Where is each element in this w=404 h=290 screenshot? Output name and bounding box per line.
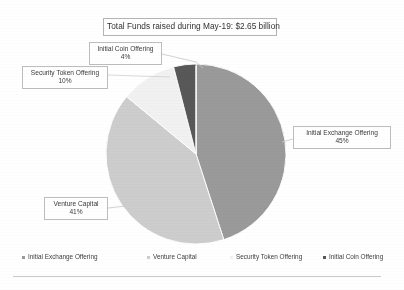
- data-label-ieo-percent: 45%: [297, 137, 387, 145]
- data-label-ico-percent: 4%: [93, 53, 158, 61]
- legend-swatch-icon: [22, 256, 25, 259]
- data-label-initial-exchange-offering: Initial Exchange Offering 45%: [293, 126, 391, 149]
- footer-divider: [13, 276, 381, 277]
- legend-swatch-icon: [230, 256, 233, 259]
- legend-item-initial-coin-offering: Initial Coin Offering: [323, 252, 383, 262]
- data-label-ieo-name: Initial Exchange Offering: [306, 129, 378, 136]
- data-label-venture-capital: Venture Capital 41%: [44, 197, 108, 220]
- chart-legend: Initial Exchange Offering Venture Capita…: [18, 252, 390, 266]
- data-label-initial-coin-offering: Initial Coin Offering 4%: [89, 42, 162, 65]
- data-label-vc-percent: 41%: [48, 208, 104, 216]
- pie-graphic: [103, 62, 289, 246]
- legend-label: Security Token Offering: [236, 252, 302, 262]
- legend-label: Initial Exchange Offering: [28, 252, 98, 262]
- legend-item-venture-capital: Venture Capital: [147, 252, 197, 262]
- pie-svg: [103, 62, 289, 246]
- legend-swatch-icon: [323, 256, 326, 259]
- legend-swatch-icon: [147, 256, 150, 259]
- legend-item-security-token-offering: Security Token Offering: [230, 252, 302, 262]
- legend-item-initial-exchange-offering: Initial Exchange Offering: [22, 252, 98, 262]
- data-label-sto-percent: 10%: [26, 77, 104, 85]
- chart-title: Total Funds raised during May-19: $2.65 …: [103, 18, 277, 36]
- data-label-sto-name: Security Token Offering: [31, 69, 99, 76]
- legend-label: Initial Coin Offering: [329, 252, 383, 262]
- data-label-ico-name: Initial Coin Offering: [98, 45, 154, 52]
- pie-chart-figure: Total Funds raised during May-19: $2.65 …: [0, 0, 404, 290]
- data-label-vc-name: Venture Capital: [53, 200, 98, 207]
- data-label-security-token-offering: Security Token Offering 10%: [22, 66, 108, 89]
- legend-label: Venture Capital: [153, 252, 197, 262]
